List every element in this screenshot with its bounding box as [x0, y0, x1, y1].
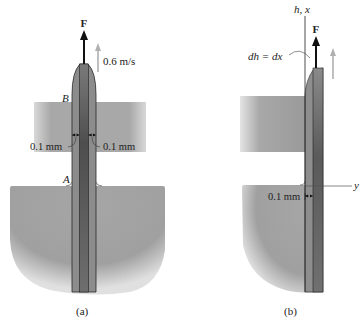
gap-label-b: 0.1 mm — [268, 191, 300, 202]
plate-core-a — [80, 64, 89, 292]
force-label-a: F — [81, 17, 88, 29]
velocity-arrowhead-icon — [330, 48, 336, 56]
upper-fluid-b — [240, 96, 305, 152]
gap-right-label: 0.1 mm — [103, 141, 135, 152]
arrowhead-icon — [80, 30, 88, 40]
differential-leader — [289, 51, 310, 58]
caption-b: (b) — [284, 305, 297, 318]
velocity-arrowhead-icon — [95, 43, 101, 51]
diagram-canvas: F 0.6 m/s B A 0.1 mm 0.1 mm (a) — [0, 0, 362, 330]
horizontal-axis-label: y — [353, 179, 359, 191]
differential-label: dh = dx — [248, 50, 282, 62]
force-label-b: F — [313, 23, 320, 35]
plate-core-b — [313, 68, 323, 292]
gap-left-label: 0.1 mm — [30, 141, 62, 152]
arrowhead-icon — [312, 36, 320, 46]
figure-b: h, x y F dh = dx 0.1 mm (b) — [240, 3, 359, 318]
point-b-label: B — [62, 92, 69, 104]
figure-a: F 0.6 m/s B A 0.1 mm 0.1 mm (a) — [10, 17, 165, 318]
point-a-label: A — [62, 173, 70, 185]
vertical-axis-label: h, x — [294, 3, 310, 15]
caption-a: (a) — [76, 305, 89, 318]
velocity-label-a: 0.6 m/s — [103, 55, 135, 67]
